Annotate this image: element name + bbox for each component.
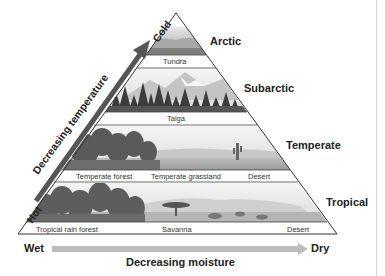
biome-label-tropical-desert: Desert	[287, 225, 309, 234]
temperate-illustration	[60, 126, 295, 170]
biome-label-temperate-grassland: Temperate grassland	[151, 172, 221, 181]
tundra-illustration	[140, 27, 220, 55]
biome-label-tropical-rain-forest: Tropical rain forest	[36, 225, 98, 234]
biome-label-temperate-desert: Desert	[248, 172, 270, 181]
moisture-label-dry: Dry	[311, 242, 329, 254]
moisture-axis-title: Decreasing moisture	[126, 256, 235, 268]
moisture-arrow	[52, 243, 308, 255]
biome-label-taiga: Taiga	[167, 114, 185, 123]
zone-label-tropical: Tropical	[326, 196, 368, 208]
zone-label-temperate: Temperate	[286, 139, 341, 151]
zone-label-subarctic: Subarctic	[244, 82, 294, 94]
moisture-label-wet: Wet	[24, 242, 44, 254]
biome-label-tundra: Tundra	[163, 57, 187, 66]
tropical-illustration	[20, 182, 330, 222]
biome-label-temperate-forest: Temperate forest	[76, 172, 132, 181]
zone-label-arctic: Arctic	[210, 35, 241, 47]
biome-label-savanna: Savanna	[162, 225, 192, 234]
